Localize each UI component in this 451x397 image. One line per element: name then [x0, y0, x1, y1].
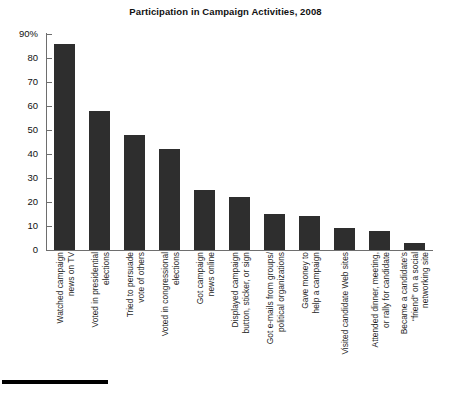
x-axis-label-line: Became a candidate’s [399, 252, 410, 380]
x-axis-label-line: Voted in presidential [89, 252, 100, 380]
y-tick-label: 30 [27, 172, 38, 183]
x-axis-label-text: Attended dinner, meeting,or rally for ca… [369, 252, 390, 380]
y-tick-label: 60 [27, 100, 38, 111]
y-tick-label: 80 [27, 52, 38, 63]
x-axis-label-text: Displayed campaignbutton, sticker, or si… [229, 252, 250, 380]
x-axis-label-line: elections [100, 252, 111, 380]
x-axis-label-line: Attended dinner, meeting, [369, 252, 380, 380]
x-axis-label-line: elections [170, 252, 181, 380]
x-axis-label-text: Visited candidate Web sites [339, 252, 350, 380]
x-axis-label-line: Got e-mails from groups/ [264, 252, 275, 380]
x-axis-label-line: Visited candidate Web sites [339, 252, 350, 380]
chart-title: Participation in Campaign Activities, 20… [0, 6, 451, 17]
bar [334, 228, 355, 250]
x-axis-label-text: Got e-mails from groups/political organi… [264, 252, 285, 380]
x-axis-label-line: button, sticker, or sign [240, 252, 251, 380]
y-tick-label: 40 [27, 148, 38, 159]
x-axis-label-text: Tried to persuadevote of others [124, 252, 145, 380]
bar [159, 149, 180, 250]
y-tick-label: 70 [27, 76, 38, 87]
bar [124, 135, 145, 250]
x-axis-label-line: Watched campaign [54, 252, 65, 380]
y-tick-label: 10 [27, 220, 38, 231]
bar [194, 190, 215, 250]
bar [229, 197, 250, 250]
bottom-rule [2, 380, 108, 384]
x-axis-label-text: Got campaignnews online [194, 252, 215, 380]
x-axis-label-line: Tried to persuade [124, 252, 135, 380]
y-tick-mark [47, 250, 52, 251]
x-axis-label-line: Gave money to [299, 252, 310, 380]
x-axis-labels: Watched campaignnews on TVVoted in presi… [47, 252, 432, 387]
x-axis-label-line: or rally for candidate [380, 252, 391, 380]
y-tick-label: 90% [19, 28, 38, 39]
x-axis-label-text: Voted in congressionalelections [159, 252, 180, 380]
bar [89, 111, 110, 250]
bar [54, 44, 75, 250]
x-axis-label-text: Became a candidate’s“friend” on a social… [399, 252, 431, 380]
x-axis-label-line: news online [205, 252, 216, 380]
plot-area [47, 34, 432, 250]
y-tick-label: 20 [27, 196, 38, 207]
y-tick-label: 50 [27, 124, 38, 135]
y-axis-ticks: 90%80706050403020100 [0, 34, 47, 251]
chart-figure: Participation in Campaign Activities, 20… [0, 0, 451, 397]
x-axis-label-line: Got campaign [194, 252, 205, 380]
bar [404, 243, 425, 250]
x-axis-label-line: news on TV [65, 252, 76, 380]
y-tick-label: 0 [33, 244, 38, 255]
bar [369, 231, 390, 250]
x-axis-label-line: “friend” on a social [409, 252, 420, 380]
x-axis-label-line: vote of others [135, 252, 146, 380]
x-axis-label-line: Displayed campaign [229, 252, 240, 380]
x-axis-label-line: Voted in congressional [159, 252, 170, 380]
x-axis-label-line: help a campaign [310, 252, 321, 380]
x-axis-label-text: Gave money tohelp a campaign [299, 252, 320, 380]
bar [264, 214, 285, 250]
x-axis-label-line: political organizations [275, 252, 286, 380]
x-axis-label-text: Voted in presidentialelections [89, 252, 110, 380]
bar [299, 216, 320, 250]
x-axis-label-text: Watched campaignnews on TV [54, 252, 75, 380]
x-axis-line [46, 250, 433, 251]
x-axis-label-line: networking site [420, 252, 431, 380]
